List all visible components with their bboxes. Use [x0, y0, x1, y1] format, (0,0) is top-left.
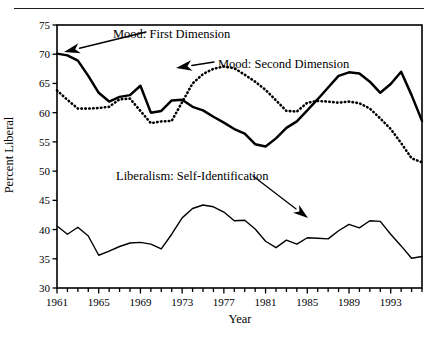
- y-tick-60: 60: [28, 107, 50, 118]
- y-tick-30: 30: [28, 283, 50, 294]
- axes: [53, 25, 423, 294]
- annotation-arrows: [64, 32, 308, 218]
- y-tick-45: 45: [28, 195, 50, 206]
- x-tick-1965: 1965: [88, 297, 110, 308]
- x-tick-1973: 1973: [171, 297, 193, 308]
- y-tick-65: 65: [28, 78, 50, 89]
- series-line-liberalism-self-identification: [57, 205, 422, 258]
- y-tick-35: 35: [28, 253, 50, 264]
- y-tick-50: 50: [28, 166, 50, 177]
- chart-figure: Percent Liberal Year Mood: First Dimensi…: [0, 0, 435, 338]
- x-tick-1993: 1993: [380, 297, 402, 308]
- y-tick-75: 75: [28, 20, 50, 31]
- data-series: [57, 54, 422, 259]
- x-tick-1977: 1977: [213, 297, 235, 308]
- x-tick-1989: 1989: [338, 297, 360, 308]
- x-tick-1985: 1985: [296, 297, 318, 308]
- y-tick-55: 55: [28, 136, 50, 147]
- y-tick-70: 70: [28, 49, 50, 60]
- series-line-mood-first-dimension: [57, 54, 422, 147]
- x-tick-1969: 1969: [129, 297, 151, 308]
- y-tick-40: 40: [28, 224, 50, 235]
- x-tick-1981: 1981: [255, 297, 277, 308]
- x-tick-1961: 1961: [46, 297, 68, 308]
- plot-area: [0, 0, 435, 338]
